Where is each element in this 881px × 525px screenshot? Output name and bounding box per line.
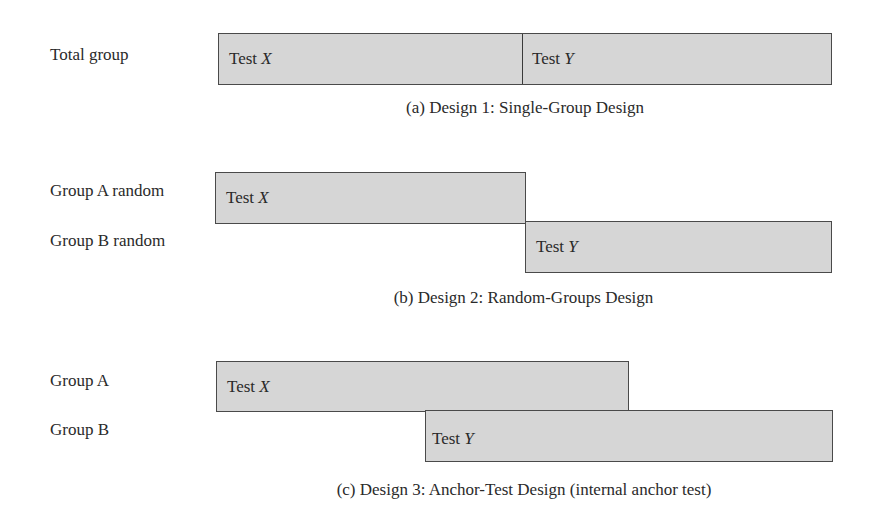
group-label-a-random: Group A random	[50, 181, 164, 201]
group-label-b-random: Group B random	[50, 231, 165, 251]
test-x-label: Test X	[226, 188, 269, 208]
group-label-a: Group A	[50, 371, 109, 391]
group-label-b: Group B	[50, 420, 109, 440]
test-y-label: Test Y	[536, 237, 578, 257]
design-3-caption: (c) Design 3: Anchor-Test Design (intern…	[215, 480, 833, 500]
test-y-label: Test Y	[532, 49, 574, 69]
test-divider	[522, 34, 523, 84]
design-2-caption: (b) Design 2: Random-Groups Design	[215, 288, 832, 308]
test-y-label: Test Y	[432, 429, 474, 449]
design-2-test-x-bar: Test X	[215, 172, 526, 224]
design-1-caption: (a) Design 1: Single-Group Design	[218, 98, 832, 118]
design-3-test-x-bar: Test X	[216, 361, 629, 412]
design-1-total-group-bar: Test X Test Y	[218, 33, 832, 85]
design-3-test-y-bar: Test Y	[425, 410, 833, 462]
test-x-label: Test X	[227, 377, 270, 397]
group-label-total: Total group	[50, 45, 129, 65]
test-x-label: Test X	[229, 49, 272, 69]
design-2-test-y-bar: Test Y	[525, 221, 832, 273]
